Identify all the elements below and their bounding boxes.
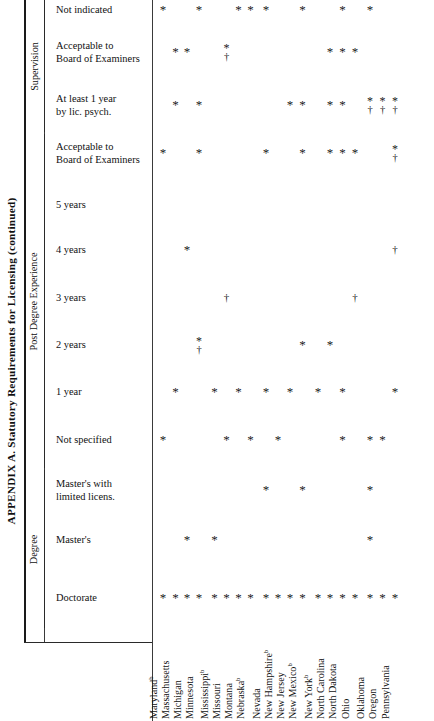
row-label-not-specified: Not specified	[56, 434, 150, 447]
mark-one-year-montana: *	[235, 386, 242, 398]
appendix-caption: APPENDIX A. Statutory Requirements for L…	[5, 197, 17, 524]
state-label-text: Nebraska	[235, 681, 246, 719]
state-label-text: North Dakota	[327, 664, 338, 719]
mark-sup-acceptable-north-carolina: *	[327, 46, 334, 58]
mark-one-year-massachusetts: *	[172, 386, 179, 398]
mark-at-least-1-year-north-carolina: *	[327, 99, 334, 111]
mark-doctorate-new-mexico: *	[299, 592, 306, 604]
state-label-text: Missouri	[211, 683, 222, 719]
state-label-text: Oklahoma	[355, 677, 366, 719]
state-label-text: Pennsylvania	[380, 665, 391, 719]
row-label-sup-acceptable: Acceptable toBoard of Examiners	[56, 40, 150, 65]
mark-one-year-new-york: *	[315, 386, 322, 398]
mark-not-specified-maryland: *	[160, 434, 167, 446]
state-label-text: New Mexico	[287, 667, 298, 719]
state-label-text: New York	[303, 678, 314, 719]
state-label-text: Minnesota	[184, 676, 195, 719]
mark-doctorate-ohio: *	[352, 592, 359, 604]
state-label-ohio: Ohio	[340, 699, 351, 719]
state-footnote-marker: b	[302, 675, 309, 678]
group-label-supervision: Supervision	[24, 0, 44, 132]
row-label-five-years: 5 years	[56, 199, 150, 212]
state-label-text: North Carolina	[315, 658, 326, 719]
row-label-line2: Board of Examiners	[56, 53, 150, 66]
mark-not-indicated-nevada: *	[263, 4, 270, 16]
row-label-line1: Not indicated	[56, 4, 150, 17]
state-label-text: Maryland	[148, 680, 159, 719]
row-label-line1: 2 years	[56, 339, 150, 352]
state-label-new-mexico: New Mexicob	[287, 663, 298, 719]
group-bracket-degree	[44, 470, 45, 628]
mark-at-least-1-year-massachusetts: *	[172, 99, 179, 111]
mark-sup-acceptable-ohio: *	[352, 46, 359, 58]
mark-sup-acceptable-north-dakota: *	[339, 46, 346, 58]
mark-not-specified-new-hampshire: *	[275, 434, 282, 446]
appendix-caption-area: APPENDIX A. Statutory Requirements for L…	[0, 0, 22, 721]
appendix-page: APPENDIX A. Statutory Requirements for L…	[0, 0, 434, 721]
mark-three-years-missouri: †	[224, 292, 230, 304]
mark-doctorate-north-dakota: *	[339, 592, 346, 604]
state-label-text: Nevada	[251, 688, 262, 719]
mark-pde-acceptable-north-carolina: *	[327, 147, 334, 159]
mark-not-indicated-north-dakota: *	[339, 4, 346, 16]
state-label-massachusetts: Massachusetts	[160, 661, 171, 719]
mark-doctorate-missouri: *	[223, 592, 230, 604]
row-label-one-year: 1 year	[56, 386, 150, 399]
state-label-north-carolina: North Carolina	[315, 658, 326, 719]
row-label-line2: limited licens.	[56, 491, 150, 504]
row-label-line2: Board of Examiners	[56, 154, 150, 167]
row-label-line1: At least 1 year	[56, 93, 150, 106]
state-label-new-jersey: New Jersey	[275, 672, 286, 719]
state-label-text: Oregon	[367, 689, 378, 719]
mark-sup-acceptable-massachusetts: *	[172, 46, 179, 58]
state-label-text: Ohio	[340, 699, 351, 719]
mark-doctorate-new-hampshire: *	[275, 592, 282, 604]
mark-doctorate-minnesota: *	[196, 592, 203, 604]
mark-masters-mississippi: *	[211, 534, 218, 546]
mark-pde-acceptable-minnesota: *	[196, 147, 203, 159]
state-label-text: Montana	[223, 683, 234, 719]
mark-three-years-ohio: †	[352, 292, 358, 304]
row-label-two-years: 2 years	[56, 339, 150, 352]
mark-doctorate-mississippi: *	[211, 592, 218, 604]
mark-doctorate-maryland: *	[160, 592, 167, 604]
row-label-three-years: 3 years	[56, 292, 150, 305]
mark-at-least-1-year-new-mexico: *	[299, 99, 306, 111]
state-label-text: Michigan	[172, 680, 183, 719]
row-label-masters: Master's	[56, 534, 150, 547]
state-footnote-marker: b	[262, 650, 269, 653]
group-bracket-supervision	[44, 0, 45, 132]
mark-not-specified-nebraska: *	[247, 434, 254, 446]
state-label-nevada: Nevada	[251, 688, 262, 719]
mark-sup-acceptable-michigan: *	[184, 46, 191, 58]
state-label-missouri: Missouri	[211, 683, 222, 719]
mark-doctorate-massachusetts: *	[172, 592, 179, 604]
mark-pde-acceptable-pennsylvania: *†	[392, 146, 398, 161]
state-footnote-marker: b	[234, 678, 241, 681]
mark-at-least-1-year-pennsylvania: *†	[392, 98, 398, 113]
state-label-north-dakota: North Dakota	[327, 664, 338, 719]
row-label-line1: Doctorate	[56, 592, 150, 605]
mark-not-specified-north-dakota: *	[339, 434, 346, 446]
mark-one-year-pennsylvania: *	[392, 386, 399, 398]
state-label-text: New Hampshire	[263, 653, 274, 719]
mark-one-year-new-jersey: *	[287, 386, 294, 398]
mark-not-indicated-oklahoma: *	[367, 4, 374, 16]
row-label-line1: 4 years	[56, 244, 150, 257]
row-label-line1: Acceptable to	[56, 40, 150, 53]
row-label-line1: 1 year	[56, 386, 150, 399]
mark-not-specified-missouri: *	[223, 434, 230, 446]
state-label-text: Massachusetts	[160, 661, 171, 719]
state-label-maryland: Marylandb	[148, 676, 159, 719]
mark-pde-acceptable-ohio: *	[352, 147, 359, 159]
mark-doctorate-oregon: *	[379, 592, 386, 604]
group-label-degree: Degree	[24, 470, 44, 628]
state-label-pennsylvania: Pennsylvania	[380, 665, 391, 719]
mark-not-indicated-new-mexico: *	[299, 4, 306, 16]
mark-sup-acceptable-missouri: *†	[224, 45, 230, 60]
state-label-text: Mississippi	[199, 673, 210, 719]
state-label-montana: Montana	[223, 683, 234, 719]
state-footnote-marker: b	[286, 663, 293, 666]
mark-doctorate-new-jersey: *	[287, 592, 294, 604]
mark-masters-limited-oklahoma: *	[367, 484, 374, 496]
